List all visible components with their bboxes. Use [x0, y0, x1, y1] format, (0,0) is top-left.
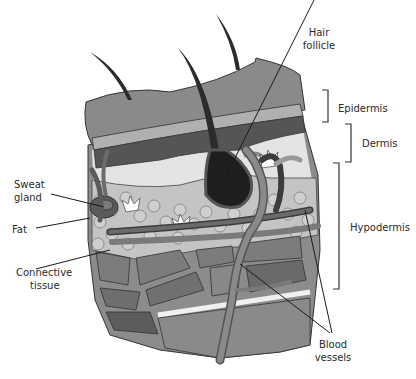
label-hair-follicle-line1: Hair [309, 27, 330, 38]
label-sweat-gland-line2: gland [14, 192, 42, 203]
label-sweat-gland-line1: Sweat [14, 179, 45, 190]
label-epidermis: Epidermis [338, 103, 388, 114]
label-connective-tissue-line1: Connective [16, 267, 72, 278]
label-blood-vessels-line1: Blood [319, 339, 347, 350]
label-connective-tissue-line2: tissue [30, 280, 60, 291]
layer-brackets [322, 90, 351, 289]
label-hair-follicle-line2: follicle [303, 40, 335, 51]
hair-left [90, 52, 132, 100]
label-fat: Fat [12, 224, 27, 235]
label-hypodermis: Hypodermis [350, 222, 410, 233]
dermis-bracket [345, 124, 351, 162]
label-dermis: Dermis [362, 138, 398, 149]
skin-cross-section-diagram: Hair follicle Epidermis Dermis Hypodermi… [0, 0, 416, 379]
label-blood-vessels-line2: vessels [315, 352, 352, 363]
hair-right [216, 14, 240, 70]
hypodermis-bracket [333, 163, 339, 289]
epidermis-bracket [322, 90, 328, 122]
fat-leader [36, 218, 90, 228]
